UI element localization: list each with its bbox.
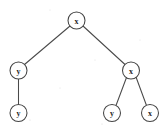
node-right-right-leaf: x xyxy=(142,105,159,122)
node-left-left-leaf: y xyxy=(10,105,27,122)
edge-root-to-left-child xyxy=(25,26,71,65)
scan-speck xyxy=(95,60,96,61)
scan-speck xyxy=(140,40,141,41)
scan-speck xyxy=(29,119,30,120)
scan-speck xyxy=(101,123,102,124)
binary-tree-figure: x y x y y x xyxy=(0,0,165,129)
scan-speck xyxy=(50,10,51,11)
edge-root-to-right-child xyxy=(83,26,125,65)
node-label: x xyxy=(148,109,152,118)
node-root: x xyxy=(68,12,85,29)
node-label: x xyxy=(75,17,79,26)
edge-right-to-right-leaf xyxy=(136,77,147,106)
node-left-child: y xyxy=(10,62,27,79)
tree-canvas: x y x y y x xyxy=(0,0,165,129)
edge-right-to-left-leaf xyxy=(116,78,127,106)
node-right-child: x xyxy=(123,62,140,79)
scan-speck xyxy=(60,88,61,89)
node-label: y xyxy=(17,109,21,118)
node-right-left-leaf: y xyxy=(104,105,121,122)
node-label: x xyxy=(129,67,133,76)
node-label: y xyxy=(110,109,114,118)
node-label: y xyxy=(17,67,21,76)
